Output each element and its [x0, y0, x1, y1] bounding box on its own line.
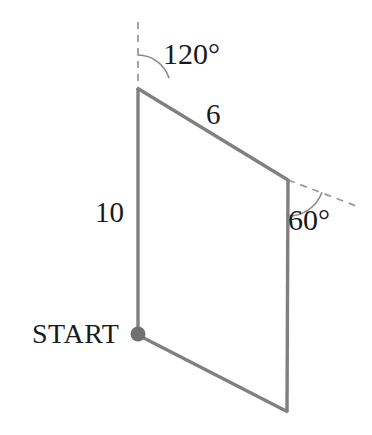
- angle-label-120: 120°: [163, 39, 220, 69]
- start-label: START: [32, 320, 119, 348]
- start-point-marker: [131, 327, 146, 342]
- diagram-canvas: 120° 60° 10 6 START: [0, 0, 372, 435]
- segment-bottom-side: [138, 335, 288, 412]
- side-length-label-10: 10: [95, 198, 124, 227]
- side-length-label-6: 6: [206, 100, 221, 129]
- angle-label-60: 60°: [288, 205, 330, 235]
